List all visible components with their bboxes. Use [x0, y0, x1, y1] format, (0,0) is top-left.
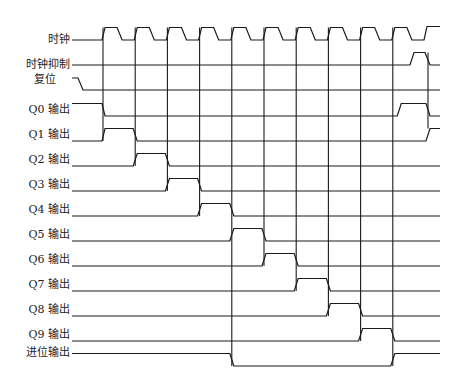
- wave-q8: [72, 304, 440, 317]
- wave-inh: [72, 53, 440, 66]
- signal-label-inh: 时钟抑制: [26, 57, 70, 71]
- signal-label-q7: Q7 输出: [28, 277, 70, 291]
- signal-label-q1: Q1 输出: [28, 127, 70, 141]
- wave-q4: [72, 204, 440, 217]
- signal-label-q3: Q3 输出: [28, 177, 70, 191]
- wave-q6: [72, 254, 440, 267]
- signal-label-q2: Q2 输出: [28, 152, 70, 166]
- signal-label-q8: Q8 输出: [28, 302, 70, 316]
- wave-q3: [72, 179, 440, 192]
- signal-label-rst: 复位: [34, 72, 56, 86]
- timing-diagram: 时钟时钟抑制复位Q0 输出Q1 输出Q2 输出Q3 输出Q4 输出Q5 输出Q6…: [0, 0, 464, 387]
- signal-label-q9: Q9 输出: [28, 327, 70, 341]
- wave-q5: [72, 229, 440, 242]
- wave-clk: [72, 27, 440, 41]
- wave-q0: [72, 104, 440, 117]
- signal-label-q5: Q5 输出: [28, 227, 70, 241]
- signal-label-clk: 时钟: [48, 32, 70, 46]
- wave-q7: [72, 279, 440, 292]
- signal-label-q6: Q6 输出: [28, 252, 70, 266]
- wave-q9: [72, 329, 440, 342]
- wave-co: [72, 354, 440, 367]
- signal-label-co: 进位输出: [26, 345, 70, 359]
- wave-q1: [72, 129, 440, 142]
- wave-rst: [72, 78, 440, 90]
- signal-label-q0: Q0 输出: [28, 102, 70, 116]
- wave-q2: [72, 154, 440, 167]
- signal-label-q4: Q4 输出: [28, 202, 70, 216]
